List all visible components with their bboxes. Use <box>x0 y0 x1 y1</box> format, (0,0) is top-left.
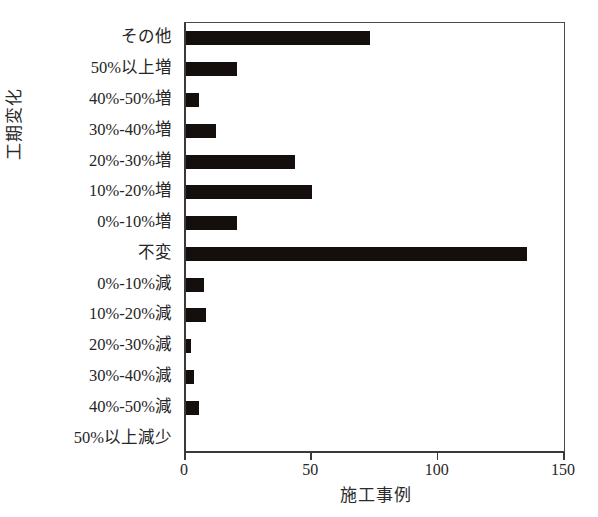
x-tick-mark <box>563 453 565 460</box>
bar <box>186 185 312 199</box>
category-label: 30%-40%増 <box>89 117 172 143</box>
x-axis-ticks: 050100150 <box>184 453 567 483</box>
plot-area <box>184 22 565 453</box>
x-tick-label: 0 <box>180 461 188 479</box>
x-axis-title: 施工事例 <box>184 481 567 506</box>
bar <box>186 216 237 230</box>
bar <box>186 401 199 415</box>
category-label: 40%-50%増 <box>89 86 172 112</box>
category-label: 40%-50%減 <box>89 394 172 420</box>
bar <box>186 278 204 292</box>
bar <box>186 155 295 169</box>
category-label: 不変 <box>138 240 172 266</box>
bar <box>186 308 206 322</box>
x-tick-mark <box>437 453 439 460</box>
bar <box>186 31 370 45</box>
x-tick-label: 100 <box>425 461 449 479</box>
bar <box>186 370 194 384</box>
category-label: 20%-30%減 <box>89 332 172 358</box>
x-tick-mark <box>310 453 312 460</box>
x-tick-label: 50 <box>302 461 318 479</box>
category-label: 0%-10%減 <box>97 271 172 297</box>
x-tick-mark <box>184 453 186 460</box>
bar <box>186 124 216 138</box>
category-label: 20%-30%増 <box>89 148 172 174</box>
category-label: 0%-10%増 <box>97 209 172 235</box>
category-label: 10%-20%減 <box>89 301 172 327</box>
category-axis-labels: その他50%以上増40%-50%増30%-40%増20%-30%増10%-20%… <box>20 22 178 453</box>
category-label: 50%以上増 <box>91 55 172 81</box>
bar <box>186 339 191 353</box>
x-tick-label: 150 <box>551 461 575 479</box>
bar <box>186 93 199 107</box>
bar-chart-figure: 工期変化 その他50%以上増40%-50%増30%-40%増20%-30%増10… <box>0 0 598 517</box>
category-label: 50%以上減少 <box>74 425 172 451</box>
bar <box>186 62 237 76</box>
category-label: 10%-20%増 <box>89 178 172 204</box>
bar <box>186 247 527 261</box>
category-label: 30%-40%減 <box>89 363 172 389</box>
category-label: その他 <box>121 24 172 50</box>
